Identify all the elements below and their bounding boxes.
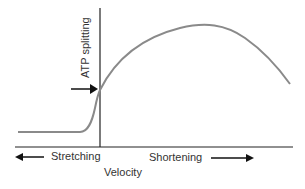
stretching-arrow-icon: [15, 153, 44, 161]
shortening-label: Shortening: [149, 151, 202, 163]
stretching-label: Stretching: [51, 150, 101, 162]
shortening-arrow-icon: [211, 154, 254, 162]
y-axis-label: ATP splitting: [79, 17, 91, 78]
zero-velocity-arrow-icon: [71, 84, 98, 94]
x-axis-label: Velocity: [104, 166, 142, 178]
atp-curve: [18, 25, 290, 132]
